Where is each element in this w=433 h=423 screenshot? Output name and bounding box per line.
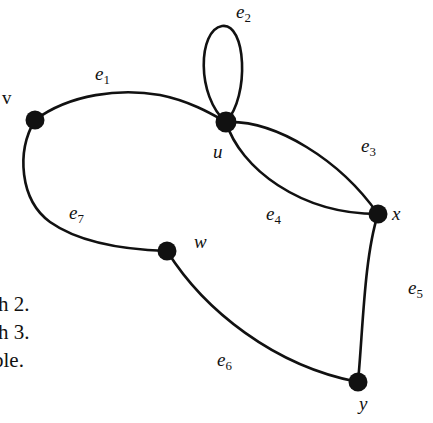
vertex-y [349, 373, 368, 392]
vertex-label-y: y [359, 394, 367, 413]
vertex-u [216, 112, 237, 133]
edge-label-e5: e5 [408, 278, 423, 301]
edge-e1 [35, 92, 226, 122]
edge-label-subscript: 5 [416, 286, 422, 301]
page-text-line: h 3. [0, 322, 30, 343]
edge-label-subscript: 4 [274, 212, 280, 227]
vertex-w [158, 242, 177, 261]
edge-label-e3: e3 [361, 136, 376, 159]
edge-e7 [23, 120, 167, 251]
vertex-label-w: w [194, 232, 207, 251]
vertex-label-x: x [392, 204, 400, 223]
page-text-line: h 2. [0, 294, 30, 315]
edge-label-e6: e6 [217, 350, 232, 373]
edge-e6 [167, 251, 358, 382]
edge-e5 [358, 214, 378, 382]
edge-label-subscript: 6 [225, 358, 231, 373]
figure-canvas: e1e2e3e4e5e6e7vuwxy h 2.h 3.ble. [0, 0, 433, 423]
edge-e2 [204, 26, 242, 122]
edge-label-subscript: 3 [369, 144, 375, 159]
edge-label-e7: e7 [69, 203, 84, 226]
page-text-line: ble. [0, 350, 24, 371]
edge-label-e2: e2 [236, 2, 251, 25]
vertex-label-v: v [2, 88, 12, 107]
edge-e3 [226, 122, 378, 214]
vertex-label-u: u [213, 142, 223, 161]
vertex-v [26, 111, 45, 130]
edge-label-subscript: 2 [244, 10, 250, 25]
edge-label-subscript: 1 [103, 72, 109, 87]
edge-e4 [226, 122, 378, 214]
edge-label-e4: e4 [266, 204, 281, 227]
vertex-x [369, 205, 388, 224]
edge-label-subscript: 7 [77, 211, 83, 226]
edge-label-e1: e1 [95, 64, 110, 87]
